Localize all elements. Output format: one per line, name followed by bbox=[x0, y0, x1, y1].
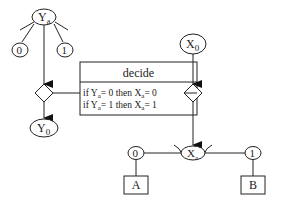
box-b: B bbox=[241, 176, 265, 194]
left-junction-diamond bbox=[35, 84, 53, 102]
influence-diagram: Ya 0 1 Y0 decide if Ya= 0 then Xa= 0 if … bbox=[0, 0, 284, 210]
xa-option-1: 1 bbox=[245, 147, 261, 177]
y0-node: Y0 bbox=[30, 119, 58, 137]
decide-box: decide if Ya= 0 then Xa= 0 if Ya= 1 then… bbox=[80, 62, 197, 115]
box-a: A bbox=[124, 176, 148, 194]
svg-text:0: 0 bbox=[17, 44, 23, 56]
decide-title: decide bbox=[123, 66, 154, 80]
xa-node: Xa bbox=[144, 145, 245, 162]
xa-option-0: 0 bbox=[128, 147, 144, 177]
ya-label: Y bbox=[38, 10, 47, 24]
svg-text:0: 0 bbox=[133, 147, 139, 159]
x0-node: X0 bbox=[180, 34, 206, 54]
svg-text:1: 1 bbox=[250, 147, 256, 159]
svg-text:1: 1 bbox=[62, 44, 68, 56]
svg-text:A: A bbox=[132, 178, 141, 192]
svg-text:B: B bbox=[249, 178, 257, 192]
ya-option-0: 0 bbox=[12, 43, 28, 57]
ya-option-1: 1 bbox=[57, 43, 73, 57]
